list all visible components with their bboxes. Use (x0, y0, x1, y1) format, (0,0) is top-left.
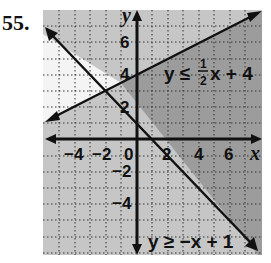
tick-y-6: 6 (120, 33, 129, 52)
tick-y-neg2: −2 (112, 162, 131, 181)
tick-y-neg4: −4 (112, 194, 132, 213)
ineq1-suffix: x + 4 (210, 63, 253, 84)
plot-area (43, 5, 262, 255)
ineq1-denominator: 2 (200, 74, 207, 88)
tick-x-neg4: −4 (64, 145, 84, 164)
tick-x-2: 2 (162, 145, 171, 164)
y-axis-label: y (120, 4, 131, 27)
tick-y-4: 4 (120, 65, 130, 84)
x-axis-label: x (249, 142, 260, 164)
tick-y-2: 2 (120, 98, 129, 117)
ineq1-numerator: 1 (200, 57, 207, 71)
tick-x-neg2: −2 (92, 145, 111, 164)
tick-x-4: 4 (194, 145, 204, 164)
tick-x-6: 6 (224, 145, 233, 164)
inequality-2-label: y ≥ −x + 1 (148, 231, 234, 252)
ineq1-prefix: y ≤ (164, 63, 190, 84)
inequality-graph: −4 −2 0 2 4 6 6 4 2 −2 −4 y x y ≤ 1 2 x … (0, 0, 271, 263)
